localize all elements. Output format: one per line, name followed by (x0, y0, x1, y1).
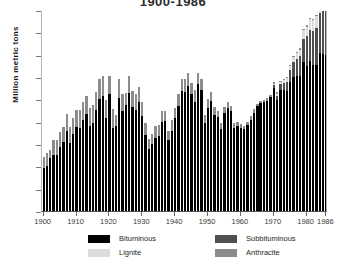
bar (49, 150, 51, 211)
legend-item: Subbituminous (215, 234, 296, 243)
bar-segment-bituminous (233, 128, 235, 211)
bar-segment-anthracite (59, 132, 61, 148)
bar (108, 76, 110, 211)
bar-segment-bituminous (227, 108, 229, 211)
bar-segment-lignite (315, 16, 317, 28)
bar (233, 123, 235, 211)
bar (256, 104, 258, 211)
bar-segment-anthracite (269, 95, 271, 97)
bar-segment-anthracite (246, 122, 248, 125)
bar-segment-bituminous (89, 126, 91, 211)
bar-segment-anthracite (49, 150, 51, 158)
bar-segment-lignite (296, 53, 298, 59)
bar (43, 157, 45, 211)
bar-segment-anthracite (309, 18, 311, 19)
bar (217, 111, 219, 211)
bar (105, 100, 107, 211)
bar (125, 93, 127, 211)
bar-segment-anthracite (279, 81, 281, 82)
bar-segment-lignite (286, 78, 288, 82)
bar (276, 92, 278, 211)
bar-segment-anthracite (236, 122, 238, 126)
bar (89, 108, 91, 211)
bar-segment-bituminous (204, 123, 206, 211)
bar-segment-anthracite (256, 104, 258, 107)
bar (299, 48, 301, 211)
bar-segment-bituminous (115, 126, 117, 211)
bar (85, 96, 87, 211)
bar (181, 79, 183, 211)
bar-segment-anthracite (296, 52, 298, 53)
bar-segment-anthracite (233, 123, 235, 127)
bar-segment-anthracite (69, 127, 71, 144)
legend-swatch (215, 249, 237, 257)
legend-label: Lignite (119, 248, 141, 257)
bar-segment-anthracite (266, 98, 268, 100)
x-tick-mark (108, 212, 109, 216)
bar (98, 79, 100, 211)
bar (112, 109, 114, 211)
bar-segment-subbituminous (276, 96, 278, 100)
bar-segment-bituminous (66, 131, 68, 211)
bar-segment-bituminous (135, 110, 137, 211)
bar-segment-lignite (319, 11, 321, 13)
bar-segment-subbituminous (283, 83, 285, 90)
bar-segment-bituminous (43, 168, 45, 211)
bar-segment-anthracite (283, 79, 285, 80)
bar-segment-bituminous (296, 76, 298, 211)
bar-segment-bituminous (210, 101, 212, 211)
bar-segment-anthracite (108, 76, 110, 94)
x-tick-label: 1986 (317, 217, 334, 226)
bar-segment-bituminous (62, 142, 64, 211)
bar-segment-subbituminous (306, 36, 308, 65)
bar-segment-anthracite (151, 134, 153, 144)
bar (148, 139, 150, 211)
bar (131, 91, 133, 211)
bar-segment-anthracite (98, 79, 100, 99)
bar (283, 79, 285, 211)
bar (266, 98, 268, 211)
x-tick-label: 1900 (34, 217, 51, 226)
bar (273, 82, 275, 211)
x-tick-label: 1910 (67, 217, 84, 226)
bar-segment-anthracite (75, 110, 77, 127)
bar (250, 116, 252, 211)
x-tick-mark (240, 212, 241, 216)
bar-segment-anthracite (52, 140, 54, 155)
bar (243, 126, 245, 211)
bar-segment-subbituminous (325, 11, 327, 55)
bar-segment-anthracite (171, 120, 173, 130)
bar (135, 94, 137, 211)
bar-segment-bituminous (306, 66, 308, 211)
bar-segment-bituminous (269, 97, 271, 211)
bar-segment-bituminous (131, 107, 133, 211)
bar (315, 15, 317, 211)
bar-segment-bituminous (312, 65, 314, 212)
bar-segment-anthracite (187, 73, 189, 86)
bar (286, 77, 288, 211)
bar-segment-anthracite (286, 77, 288, 78)
bar (319, 11, 321, 211)
bar (72, 118, 74, 211)
bar (59, 132, 61, 212)
bar-segment-bituminous (164, 121, 166, 211)
bar-segment-bituminous (309, 61, 311, 211)
bar-segment-bituminous (302, 62, 304, 211)
bar-segment-subbituminous (289, 70, 291, 82)
bar-segment-bituminous (85, 114, 87, 211)
y-tick-mark (36, 212, 41, 213)
bar-segment-subbituminous (322, 11, 324, 54)
bar-segment-anthracite (306, 25, 308, 26)
bar-segment-bituminous (181, 91, 183, 211)
bar (279, 81, 281, 211)
bar-segment-bituminous (266, 101, 268, 211)
bar (66, 114, 68, 211)
bar-segment-subbituminous (302, 39, 304, 62)
bar (312, 19, 314, 211)
bar (118, 79, 120, 211)
bar (253, 109, 255, 211)
bar-segment-anthracite (312, 19, 314, 20)
bar-segment-bituminous (246, 125, 248, 211)
bar-segment-lignite (299, 50, 301, 57)
bar-segment-anthracite (259, 101, 261, 103)
